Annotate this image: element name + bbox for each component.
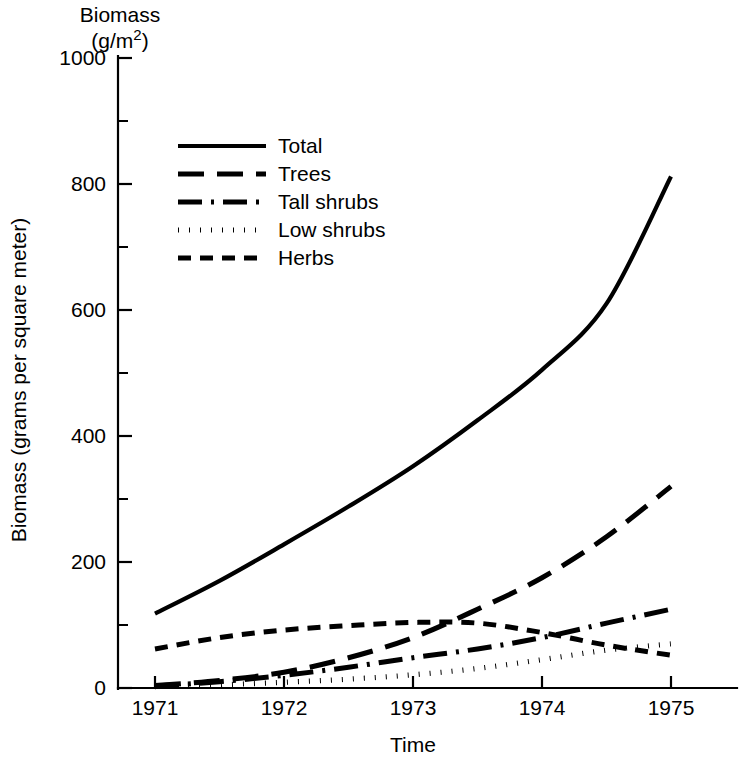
legend-label-low-shrubs: Low shrubs: [278, 218, 385, 241]
data-series-group: [155, 176, 671, 686]
y-tick-label: 1000: [59, 46, 106, 69]
y-axis-title-group: Biomass (grams per square meter): [7, 218, 30, 542]
chart-title-line1: Biomass: [80, 3, 161, 26]
legend-label-trees: Trees: [278, 162, 331, 185]
chart-legend: TotalTreesTall shrubsLow shrubsHerbs: [178, 134, 385, 269]
y-tick-label: 200: [71, 550, 106, 573]
axes-group: [118, 56, 737, 689]
x-tick-label: 1973: [390, 696, 437, 719]
legend-label-total: Total: [278, 134, 322, 157]
y-tick-label: 800: [71, 172, 106, 195]
y-axis-tick-labels: 02004006008001000: [59, 46, 106, 699]
y-tick-label: 0: [94, 676, 106, 699]
y-tick-label: 400: [71, 424, 106, 447]
chart-title-units-sup: 2: [133, 26, 141, 43]
series-line-tall-shrubs: [155, 609, 671, 686]
legend-label-herbs: Herbs: [278, 246, 334, 269]
x-tick-label: 1972: [261, 696, 308, 719]
y-axis-title: Biomass (grams per square meter): [7, 218, 30, 542]
chart-canvas: Biomass (g/m2) Biomass (grams per square…: [0, 0, 750, 761]
y-tick-label: 600: [71, 298, 106, 321]
chart-title-units-post: ): [142, 29, 149, 52]
x-tick-label: 1975: [648, 696, 695, 719]
x-tick-label: 1971: [132, 696, 179, 719]
x-axis-tick-labels: 19711972197319741975: [132, 696, 695, 719]
series-line-total: [155, 176, 671, 613]
chart-title-group: Biomass (g/m2): [80, 3, 161, 52]
x-tick-label: 1974: [519, 696, 566, 719]
x-axis-title: Time: [390, 733, 436, 756]
x-axis-title-group: Time: [390, 733, 436, 756]
biomass-line-chart: Biomass (g/m2) Biomass (grams per square…: [0, 0, 750, 761]
y-axis-ticks: [118, 58, 132, 688]
legend-label-tall-shrubs: Tall shrubs: [278, 190, 378, 213]
